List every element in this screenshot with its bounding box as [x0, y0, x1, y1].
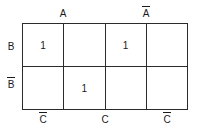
- top-label-a-negated-text: A: [142, 7, 150, 21]
- side-label-b-negated: B: [2, 78, 20, 92]
- side-label-b-text: B: [8, 41, 15, 52]
- kmap-cell-r2c1[interactable]: [23, 67, 64, 110]
- bottom-label-c-negated-left-text: C: [39, 113, 47, 127]
- top-label-a: A: [43, 7, 83, 21]
- top-label-a-negated: A: [126, 7, 166, 21]
- kmap-cell-value: 1: [123, 40, 129, 51]
- top-label-a-text: A: [60, 8, 67, 19]
- bottom-label-c-negated-right-text: C: [163, 113, 171, 127]
- kmap-cell-r1c2[interactable]: [64, 24, 105, 67]
- karnaugh-grid: 1 1 1: [22, 23, 188, 110]
- kmap-cell-value: 1: [82, 83, 88, 94]
- kmap-cell-r1c1[interactable]: 1: [23, 24, 64, 67]
- kmap-cell-r1c4[interactable]: [147, 24, 188, 67]
- kmap-cell-r2c4[interactable]: [147, 67, 188, 110]
- karnaugh-map-figure: A A B B 1 1 1: [0, 0, 197, 133]
- bottom-label-c: C: [85, 113, 125, 127]
- kmap-cell-value: 1: [40, 40, 46, 51]
- kmap-cell-r1c3[interactable]: 1: [106, 24, 147, 67]
- kmap-cell-r2c3[interactable]: [106, 67, 147, 110]
- bottom-label-c-negated-right: C: [147, 113, 187, 127]
- bottom-label-c-negated-left: C: [23, 113, 63, 127]
- bottom-label-c-text: C: [101, 114, 108, 125]
- side-label-b: B: [2, 40, 20, 54]
- side-label-b-negated-text: B: [7, 78, 15, 92]
- kmap-cell-r2c2[interactable]: 1: [64, 67, 105, 110]
